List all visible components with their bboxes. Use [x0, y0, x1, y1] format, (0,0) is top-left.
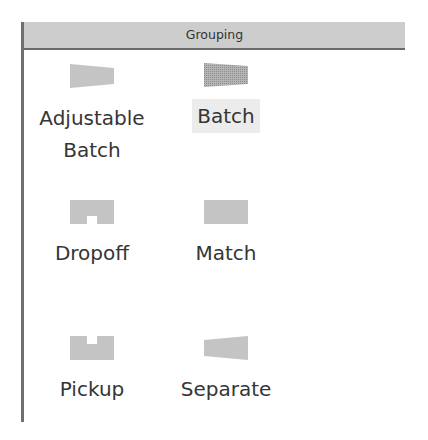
item-label: Separate	[181, 377, 272, 401]
palette-item-adjustable-batch[interactable]: Adjustable Batch	[32, 64, 152, 168]
palette-item-dropoff[interactable]: Dropoff	[32, 200, 152, 270]
match-icon	[204, 200, 248, 224]
grouping-section-header[interactable]: Grouping	[24, 22, 405, 50]
separate-icon	[204, 336, 248, 360]
section-title: Grouping	[186, 27, 243, 42]
palette-item-separate[interactable]: Separate	[166, 336, 286, 406]
batch-icon	[204, 63, 248, 87]
item-label: Match	[195, 241, 256, 265]
palette-item-pickup[interactable]: Pickup	[32, 336, 152, 406]
pickup-icon	[70, 336, 114, 360]
item-label-line2: Batch	[63, 138, 121, 162]
adjustable-batch-icon	[70, 64, 114, 88]
palette-item-batch[interactable]: Batch	[166, 63, 286, 133]
dropoff-icon	[70, 200, 114, 224]
item-label-line1: Adjustable	[39, 106, 144, 130]
palette-item-match[interactable]: Match	[166, 200, 286, 270]
item-label: Dropoff	[55, 241, 129, 265]
item-label: Batch	[197, 104, 255, 128]
panel-left-border	[21, 22, 24, 422]
item-label: Pickup	[60, 377, 125, 401]
